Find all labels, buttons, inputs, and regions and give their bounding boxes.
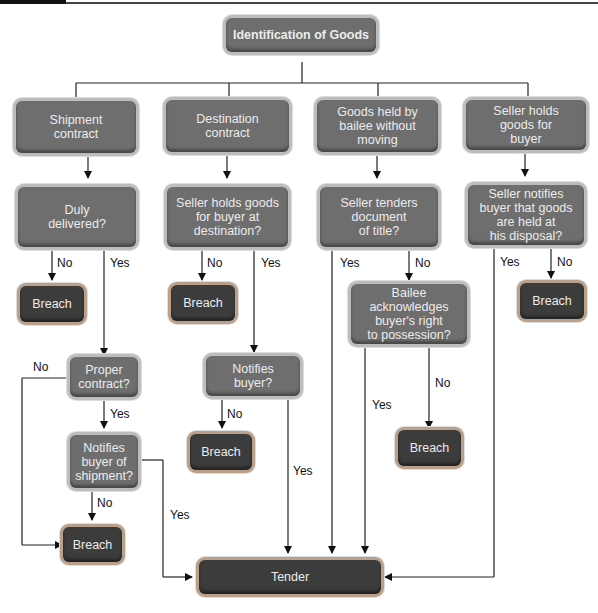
- node-shipment-contract: Shipment contract: [16, 101, 136, 153]
- edge-label-no: No: [97, 496, 112, 510]
- edge-label-yes: Yes: [500, 255, 520, 269]
- node-tender: Tender: [199, 560, 381, 594]
- edge-label-no: No: [207, 256, 222, 270]
- edge-label-yes: Yes: [110, 407, 130, 421]
- node-notifies-buyer-of-shipment: Notifies buyer of shipment?: [70, 435, 138, 488]
- node-duly-delivered: Duly delivered?: [18, 187, 136, 247]
- node-breach-1: Breach: [20, 286, 84, 322]
- node-proper-contract: Proper contract?: [70, 357, 138, 397]
- node-seller-holds-goods-at-destination: Seller holds goods for buyer at destinat…: [167, 187, 288, 247]
- node-identification-of-goods: Identification of Goods: [226, 18, 376, 52]
- node-bailee-acknowledges: Bailee acknowledges buyer's right to pos…: [351, 284, 467, 344]
- node-seller-holds-goods: Seller holds goods for buyer: [466, 100, 586, 150]
- edge-label-no: No: [557, 255, 572, 269]
- node-seller-tenders-document: Seller tenders document of title?: [320, 187, 438, 247]
- edge-label-yes: Yes: [340, 256, 360, 270]
- edge-label-no: No: [33, 360, 48, 374]
- edge-label-yes: Yes: [261, 256, 281, 270]
- connector-lines: [0, 0, 598, 613]
- edge-label-no: No: [227, 407, 242, 421]
- edge-label-yes: Yes: [110, 256, 130, 270]
- edge-label-no: No: [57, 256, 72, 270]
- node-breach-6: Breach: [63, 527, 122, 562]
- node-breach-3: Breach: [190, 434, 252, 470]
- edge-label-yes: Yes: [170, 508, 190, 522]
- node-breach-2: Breach: [171, 285, 235, 321]
- node-notifies-buyer: Notifies buyer?: [206, 356, 300, 396]
- node-breach-5: Breach: [398, 430, 461, 466]
- node-breach-4: Breach: [520, 283, 584, 319]
- edge-label-no: No: [435, 376, 450, 390]
- edge-label-no: No: [415, 256, 430, 270]
- node-seller-notifies-disposal: Seller notifies buyer that goods are hel…: [468, 185, 584, 245]
- edge-label-yes: Yes: [372, 398, 392, 412]
- node-destination-contract: Destination contract: [166, 100, 289, 152]
- edge-label-yes: Yes: [293, 464, 313, 478]
- node-goods-held-by-bailee: Goods held by bailee without moving: [317, 100, 438, 152]
